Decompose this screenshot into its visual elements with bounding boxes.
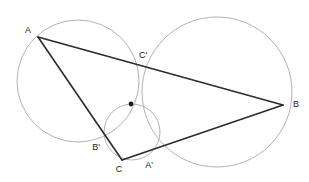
label-point-B: B: [293, 99, 299, 109]
label-point-C: C: [116, 164, 123, 174]
geometry-figure: A B C A' B' C': [0, 0, 309, 182]
center-point-dot: [129, 102, 134, 107]
geometry-canvas: A B C A' B' C': [0, 0, 309, 182]
label-point-A: A: [25, 25, 31, 35]
figure-background: [0, 0, 309, 182]
label-point-B-prime: B': [92, 142, 100, 152]
label-point-C-prime: C': [139, 50, 147, 60]
label-point-A-prime: A': [145, 160, 153, 170]
